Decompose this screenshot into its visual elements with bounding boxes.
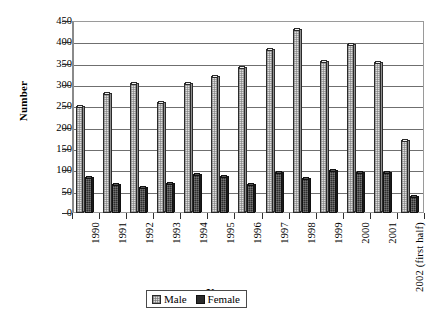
x-tick-label: 1997 [279, 222, 290, 244]
bar-male-1999 [320, 61, 328, 213]
bar-group [262, 21, 289, 213]
bar-group [153, 21, 180, 213]
legend-entry-female: Female [196, 293, 240, 305]
bar-female-1993 [166, 183, 174, 213]
bar-male-1997 [266, 49, 274, 213]
legend-label-female: Female [208, 293, 240, 305]
x-tick-mark [289, 213, 290, 219]
bar-side-cap [118, 184, 121, 212]
x-tick-label: 1998 [306, 222, 317, 244]
bar-female-2002 [410, 196, 418, 213]
bar-male-1990 [76, 106, 84, 213]
bar-side-cap [335, 170, 338, 212]
legend-label-male: Male [164, 293, 187, 305]
x-tick-label: 1996 [252, 222, 263, 244]
bar-side-cap [308, 178, 311, 212]
bar-male-1996 [238, 67, 246, 213]
bar-group [289, 21, 316, 213]
x-tick-mark [126, 213, 127, 219]
bar-female-1998 [302, 178, 310, 213]
x-tick-label: 2002 (first half) [414, 222, 425, 292]
x-tick-label: 1994 [198, 222, 209, 244]
bar-side-cap [362, 172, 365, 212]
x-tick-label: 1995 [225, 222, 236, 244]
bar-male-1993 [157, 102, 165, 213]
bar-group [234, 21, 261, 213]
bar-group [316, 21, 343, 213]
bar-group [180, 21, 207, 213]
bar-side-cap [226, 176, 229, 212]
bar-side-cap [145, 187, 148, 212]
bar-female-1992 [139, 187, 147, 213]
bar-male-2002 [401, 140, 409, 213]
x-tick-mark [207, 213, 208, 219]
x-tick-mark [153, 213, 154, 219]
bar-male-1998 [293, 29, 301, 213]
x-tick-mark [397, 213, 398, 219]
bar-group [126, 21, 153, 213]
legend-entry-male: Male [152, 293, 187, 305]
bar-female-2000 [356, 172, 364, 213]
bar-male-1995 [211, 76, 219, 213]
y-tick-mark [62, 170, 71, 171]
bar-group [99, 21, 126, 213]
x-tick-label: 2001 [387, 222, 398, 244]
bars-layer [72, 21, 424, 213]
x-tick-label: 1999 [333, 222, 344, 244]
female-swatch-icon [196, 295, 205, 304]
bar-side-cap [91, 177, 94, 212]
y-tick-mark [62, 149, 71, 150]
x-tick-mark [370, 213, 371, 219]
y-tick-mark [62, 106, 71, 107]
y-tick-mark [62, 85, 71, 86]
x-tick-label: 2000 [360, 222, 371, 244]
y-tick-mark [62, 64, 71, 65]
y-tick-mark [62, 192, 71, 193]
bar-female-1996 [247, 184, 255, 213]
x-tick-mark [234, 213, 235, 219]
bar-female-2001 [383, 172, 391, 213]
bar-group [343, 21, 370, 213]
y-tick-mark [62, 42, 71, 43]
bar-group [397, 21, 424, 213]
bar-group [207, 21, 234, 213]
bar-female-1994 [193, 174, 201, 213]
bar-side-cap [253, 184, 256, 212]
y-tick-mark [62, 213, 71, 214]
bar-female-1995 [220, 176, 228, 213]
bar-female-1999 [329, 170, 337, 213]
male-swatch-icon [152, 295, 161, 304]
bar-group [370, 21, 397, 213]
x-tick-mark [262, 213, 263, 219]
x-tick-mark [99, 213, 100, 219]
bar-group [72, 21, 99, 213]
bar-female-1991 [112, 184, 120, 213]
y-tick-mark [62, 128, 71, 129]
bar-male-2000 [347, 44, 355, 213]
bar-side-cap [281, 172, 284, 212]
y-tick-mark [62, 21, 71, 22]
bar-male-1991 [103, 93, 111, 213]
bar-side-cap [172, 183, 175, 212]
x-tick-mark [424, 213, 425, 219]
x-tick-label: 1990 [90, 222, 101, 244]
x-tick-label: 1992 [144, 222, 155, 244]
x-tick-label: 1993 [171, 222, 182, 244]
bar-side-cap [389, 172, 392, 212]
bar-female-1997 [275, 172, 283, 213]
x-tick-mark [180, 213, 181, 219]
bar-side-cap [416, 196, 419, 212]
bar-chart: Number 450400350300250200150100500 19901… [0, 0, 436, 330]
bar-male-1994 [184, 83, 192, 213]
bar-female-1990 [85, 177, 93, 213]
x-tick-label: 1991 [117, 222, 128, 244]
bar-side-cap [199, 174, 202, 212]
x-tick-mark [72, 213, 73, 219]
bar-male-2001 [374, 62, 382, 213]
bar-male-1992 [130, 83, 138, 213]
y-axis: 450400350300250200150100500 [0, 0, 72, 330]
x-tick-mark [316, 213, 317, 219]
chart-legend: Male Female [146, 290, 247, 308]
x-tick-mark [343, 213, 344, 219]
